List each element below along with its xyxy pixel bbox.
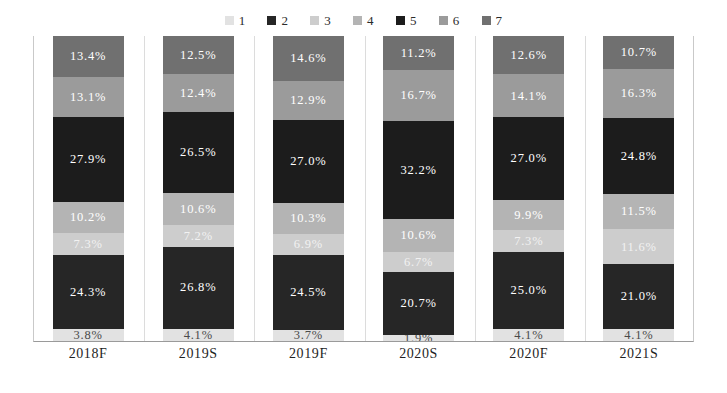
legend-label: 5 [410,14,417,27]
bar-segment-value-label: 12.4% [180,87,216,100]
bar-segment-s2-2019S[interactable]: 26.8% [163,247,234,329]
legend-item-1[interactable]: 1 [225,14,246,27]
bar-segment-value-label: 9.9% [514,209,543,222]
bar-segment-s2-2018F[interactable]: 24.3% [53,255,124,329]
bar-segment-s4-2021S[interactable]: 11.5% [603,194,674,229]
bar-segment-value-label: 4.1% [184,329,213,341]
bar-segment-value-label: 7.2% [184,230,213,243]
bar-segment-s3-2020S[interactable]: 6.7% [383,252,454,272]
bar-segment-s6-2020S[interactable]: 16.7% [383,70,454,121]
bar-segment-value-label: 25.0% [511,284,547,297]
legend-item-6[interactable]: 6 [439,14,460,27]
bar-segment-s5-2020S[interactable]: 32.2% [383,121,454,219]
bar-segment-s1-2018F[interactable]: 3.8% [53,329,124,341]
bar-segment-s6-2021S[interactable]: 16.3% [603,69,674,119]
legend-item-3[interactable]: 3 [310,14,331,27]
bar-segment-s3-2019S[interactable]: 7.2% [163,225,234,247]
bar-segment-s1-2020S[interactable]: 1.9% [383,335,454,341]
bar-segment-value-label: 24.3% [70,286,106,299]
bar-segment-s2-2019F[interactable]: 24.5% [273,255,344,330]
bar-segment-s6-2019S[interactable]: 12.4% [163,74,234,112]
bar-segment-value-label: 10.6% [180,203,216,216]
bar-segment-value-label: 11.2% [401,47,437,60]
bar-segment-s2-2020F[interactable]: 25.0% [493,252,564,328]
bar-segment-s6-2019F[interactable]: 12.9% [273,81,344,120]
legend-swatch-icon [225,16,234,25]
bar-segment-s3-2020F[interactable]: 7.3% [493,230,564,252]
x-axis-label-2019S: 2019S [143,346,253,362]
legend-label: 2 [281,14,288,27]
legend-label: 3 [324,14,331,27]
bar-segment-value-label: 4.1% [624,329,653,342]
bar-segment-s7-2019S[interactable]: 12.5% [163,36,234,74]
bar-segment-value-label: 10.6% [400,229,436,242]
legend-item-4[interactable]: 4 [353,14,374,27]
bar-segment-value-label: 7.3% [73,238,102,251]
bar-segment-value-label: 27.0% [511,152,547,165]
bar-segment-value-label: 3.8% [73,329,102,341]
bar-segment-s2-2021S[interactable]: 21.0% [603,264,674,328]
legend-item-5[interactable]: 5 [396,14,417,27]
bar-segment-value-label: 12.9% [290,94,326,107]
bar-segment-s5-2020F[interactable]: 27.0% [493,117,564,199]
bar-segment-s1-2019F[interactable]: 3.7% [273,330,344,341]
bar-segment-s6-2018F[interactable]: 13.1% [53,77,124,117]
legend-item-7[interactable]: 7 [482,14,503,27]
bar-segment-s2-2020S[interactable]: 20.7% [383,272,454,335]
bar-segment-s3-2018F[interactable]: 7.3% [53,233,124,255]
bar-segment-s7-2019F[interactable]: 14.6% [273,36,344,81]
bars-layer: 3.8%24.3%7.3%10.2%27.9%13.1%13.4%4.1%26.… [33,36,694,341]
bar-segment-value-label: 26.8% [180,281,216,294]
bar-segment-value-label: 6.7% [404,256,433,269]
bar-segment-s4-2019S[interactable]: 10.6% [163,193,234,225]
legend-swatch-icon [439,16,448,25]
bar-segment-s4-2020S[interactable]: 10.6% [383,219,454,251]
legend-label: 6 [453,14,460,27]
chart-legend: 1234567 [0,10,727,30]
bar-segment-s1-2021S[interactable]: 4.1% [603,329,674,342]
bar-column-2019S[interactable]: 4.1%26.8%7.2%10.6%26.5%12.4%12.5% [163,36,234,341]
bar-segment-s5-2019F[interactable]: 27.0% [273,120,344,202]
bar-segment-value-label: 11.5% [621,205,657,218]
bar-segment-s5-2018F[interactable]: 27.9% [53,117,124,202]
bar-segment-value-label: 14.6% [290,52,326,65]
legend-swatch-icon [482,16,491,25]
legend-item-2[interactable]: 2 [267,14,288,27]
x-axis-label-2019F: 2019F [253,346,363,362]
bar-segment-s4-2019F[interactable]: 10.3% [273,203,344,234]
x-axis-label-2020F: 2020F [474,346,584,362]
bar-column-2021S[interactable]: 4.1%21.0%11.6%11.5%24.8%16.3%10.7% [603,36,674,341]
bar-segment-s3-2019F[interactable]: 6.9% [273,234,344,255]
bar-segment-s4-2018F[interactable]: 10.2% [53,202,124,233]
bar-segment-s1-2019S[interactable]: 4.1% [163,329,234,341]
bar-segment-value-label: 20.7% [400,297,436,310]
bar-segment-s7-2018F[interactable]: 13.4% [53,36,124,77]
bar-column-2020S[interactable]: 1.9%20.7%6.7%10.6%32.2%16.7%11.2% [383,36,454,341]
bar-segment-s3-2021S[interactable]: 11.6% [603,229,674,264]
bar-segment-value-label: 6.9% [294,238,323,251]
bar-segment-value-label: 14.1% [511,90,547,103]
bar-segment-s7-2020F[interactable]: 12.6% [493,36,564,74]
bar-column-2019F[interactable]: 3.7%24.5%6.9%10.3%27.0%12.9%14.6% [273,36,344,341]
bar-segment-value-label: 10.7% [621,46,657,59]
bar-segment-s5-2019S[interactable]: 26.5% [163,112,234,193]
bar-segment-value-label: 10.2% [70,211,106,224]
bar-segment-s5-2021S[interactable]: 24.8% [603,118,674,194]
bar-segment-s7-2021S[interactable]: 10.7% [603,36,674,69]
bar-segment-s6-2020F[interactable]: 14.1% [493,74,564,117]
bar-segment-value-label: 24.5% [290,286,326,299]
bar-segment-value-label: 26.5% [180,146,216,159]
bar-segment-value-label: 13.4% [70,50,106,63]
bar-segment-value-label: 24.8% [621,150,657,163]
legend-swatch-icon [396,16,405,25]
legend-swatch-icon [353,16,362,25]
stacked-bar-chart: 1234567 3.8%24.3%7.3%10.2%27.9%13.1%13.4… [0,0,727,393]
bar-segment-s4-2020F[interactable]: 9.9% [493,200,564,230]
bar-segment-s1-2020F[interactable]: 4.1% [493,329,564,342]
bar-segment-value-label: 12.6% [511,49,547,62]
bar-column-2020F[interactable]: 4.1%25.0%7.3%9.9%27.0%14.1%12.6% [493,36,564,341]
bar-segment-s7-2020S[interactable]: 11.2% [383,36,454,70]
bar-segment-value-label: 32.2% [400,164,436,177]
bar-column-2018F[interactable]: 3.8%24.3%7.3%10.2%27.9%13.1%13.4% [53,36,124,341]
legend-label: 7 [496,14,503,27]
